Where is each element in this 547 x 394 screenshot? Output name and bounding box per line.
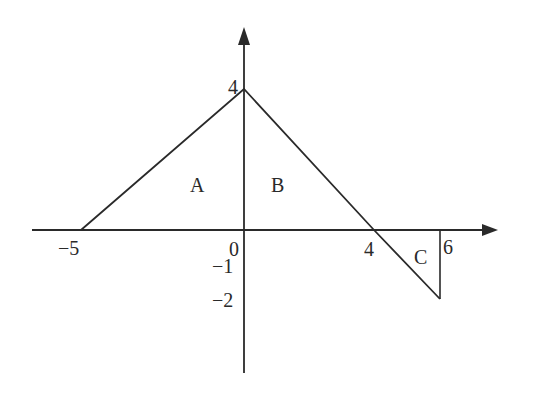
x-tick-label-4: 4: [364, 238, 374, 260]
y-axis-arrow-icon: [238, 27, 250, 45]
region-label-b: B: [271, 174, 284, 196]
region-label-c: C: [414, 246, 427, 268]
x-tick-label-6: 6: [443, 236, 453, 258]
region-label-a: A: [190, 174, 205, 196]
graph-line: [81, 89, 440, 299]
y-tick-label-minus1: −1: [212, 255, 233, 277]
diagram-canvas: −5 0 4 6 4 −1 −2 A B C: [0, 0, 547, 394]
x-axis-arrow-icon: [482, 224, 498, 236]
y-tick-label-4: 4: [228, 76, 238, 98]
y-tick-label-minus2: −2: [212, 289, 233, 311]
x-tick-label-minus5: −5: [58, 237, 79, 259]
